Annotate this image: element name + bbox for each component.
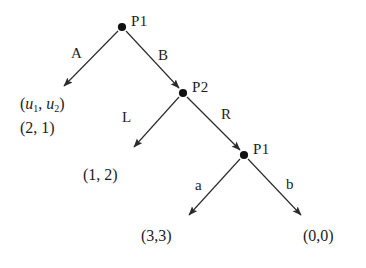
payoff-legend: (u1, u2) bbox=[20, 96, 65, 112]
payoff-leaf-a: (2, 1) bbox=[20, 120, 55, 136]
edge-label-r: R bbox=[221, 107, 231, 122]
node-label-root-p1: P1 bbox=[131, 14, 147, 29]
payoff-leaf-l: (1, 2) bbox=[83, 167, 118, 183]
decision-node-p2[interactable] bbox=[179, 89, 187, 97]
node-label-p2: P2 bbox=[192, 80, 208, 95]
edge-line-B bbox=[126, 31, 179, 88]
edge-line-R bbox=[187, 97, 240, 150]
payoff-legend-sub2: 2 bbox=[54, 103, 59, 114]
game-tree-diagram: P1 P2 P1 A B L R a b (u1, u2) (2, 1) (1,… bbox=[0, 0, 366, 268]
node-label-p1-second: P1 bbox=[253, 142, 269, 157]
payoff-legend-sub1: 1 bbox=[33, 103, 38, 114]
edge-label-b-lowercase: b bbox=[286, 177, 294, 192]
decision-node-root[interactable] bbox=[118, 23, 126, 31]
payoff-leaf-a-lower: (3,3) bbox=[141, 228, 172, 244]
payoff-leaf-b-lower: (0,0) bbox=[303, 228, 334, 244]
edge-label-a-lowercase: a bbox=[195, 178, 202, 193]
edge-label-a-uppercase: A bbox=[71, 46, 82, 61]
payoff-legend-close: ) bbox=[59, 95, 64, 112]
edge-line-L bbox=[134, 97, 179, 147]
decision-node-p1-second[interactable] bbox=[240, 151, 248, 159]
edge-label-b-uppercase: B bbox=[158, 48, 168, 63]
edge-label-l: L bbox=[122, 110, 131, 125]
